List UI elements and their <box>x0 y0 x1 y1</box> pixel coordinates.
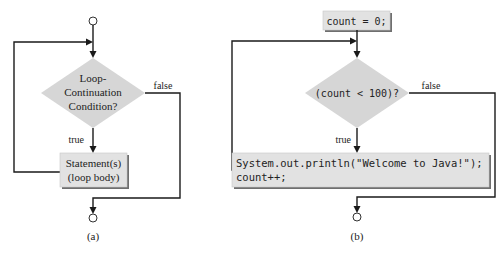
false-label-a: false <box>154 80 173 91</box>
body-text-b-line1: System.out.println("Welcome to Java!"); <box>236 157 483 169</box>
loop-flowcharts: Loop- Continuation Condition? false (a) … <box>0 0 502 253</box>
body-text-a-line1: Statement(s) <box>66 157 122 170</box>
end-node-a <box>89 214 97 222</box>
false-label-b: false <box>422 80 441 91</box>
flowchart-b: count = 0; (count < 100)? false (b) true… <box>232 11 495 243</box>
arrow-down-icon <box>90 146 97 153</box>
condition-text-b: (count < 100)? <box>315 88 399 99</box>
body-text-a-line2: (loop body) <box>68 171 120 184</box>
flowchart-a: Loop- Continuation Condition? false (a) … <box>14 17 180 243</box>
arrow-right-icon <box>350 38 357 45</box>
arrow-down-icon <box>354 51 361 58</box>
condition-text-a-line3: Condition? <box>69 100 118 112</box>
true-label-a: true <box>68 134 84 145</box>
arrow-right-icon <box>86 39 93 46</box>
caption-b: (b) <box>351 230 364 243</box>
arrow-down-icon <box>90 207 97 214</box>
init-text-b: count = 0; <box>326 16 386 27</box>
arrow-down-icon <box>354 146 361 153</box>
end-node-b <box>353 213 361 221</box>
caption-a: (a) <box>87 230 100 243</box>
start-node-a <box>89 17 97 25</box>
arrow-down-icon <box>354 206 361 213</box>
condition-text-a-line1: Loop- <box>80 72 107 84</box>
body-text-b-line2: count++; <box>236 171 287 183</box>
condition-text-a-line2: Continuation <box>64 86 122 98</box>
arrow-down-icon <box>90 51 97 58</box>
true-label-b: true <box>335 134 351 145</box>
